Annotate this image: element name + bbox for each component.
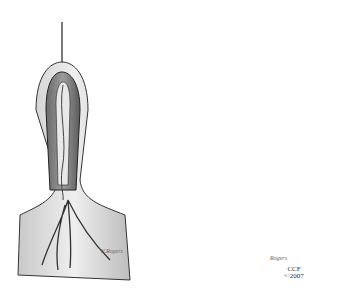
artist-signature-right: Rogers	[270, 255, 287, 261]
surgical-illustration	[0, 0, 355, 297]
credit-year: ©2007	[282, 273, 306, 280]
copyright-credit: CCF ©2007	[282, 266, 306, 280]
artist-signature-left: W.Rogers	[100, 248, 123, 254]
left-panel	[18, 22, 130, 280]
